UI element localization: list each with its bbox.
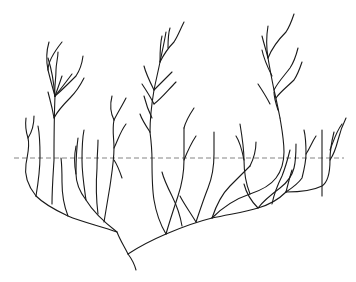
background [0,0,356,282]
branching-tree-diagram [0,0,356,282]
